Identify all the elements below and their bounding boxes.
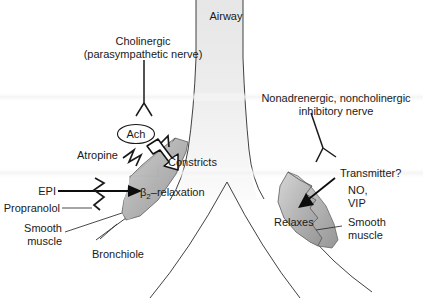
nanc-nerve-icon	[311, 113, 336, 162]
propranolol-block-icon	[94, 178, 104, 210]
no-label: NO,	[348, 184, 368, 196]
cholinergic-nerve-icon	[136, 60, 152, 116]
smooth-muscle-right-line2: muscle	[348, 229, 383, 241]
diagram-canvas: Airway Cholinergic (parasympathetic nerv…	[0, 0, 423, 299]
beta2-suffix: –relaxation	[151, 186, 205, 198]
propranolol-label: Propranolol	[4, 202, 60, 214]
smooth-muscle-left-line1: Smooth	[24, 222, 62, 234]
cholinergic-label-line1: Cholinergic	[115, 35, 171, 47]
ach-label: Ach	[127, 128, 146, 140]
smooth-muscle-left-line2: muscle	[27, 235, 62, 247]
smooth-muscle-right-line1: Smooth	[348, 216, 386, 228]
bronchiole-label: Bronchiole	[92, 248, 144, 260]
epi-label: EPI	[38, 185, 56, 197]
transmitter-label: Transmitter?	[340, 167, 401, 179]
atropine-label: Atropine	[77, 149, 118, 161]
nanc-label-line2: inhibitory nerve	[299, 105, 374, 117]
nanc-label-line1: Nonadrenergic, noncholinergic	[261, 92, 411, 104]
airway-innervation-figure: Airway Cholinergic (parasympathetic nerv…	[0, 0, 423, 299]
vip-label: VIP	[348, 197, 366, 209]
relaxes-label: Relaxes	[274, 216, 314, 228]
airway-label: Airway	[209, 10, 243, 22]
cholinergic-label-line2: (parasympathetic nerve)	[84, 48, 203, 60]
constricts-label: Constricts	[168, 156, 217, 168]
